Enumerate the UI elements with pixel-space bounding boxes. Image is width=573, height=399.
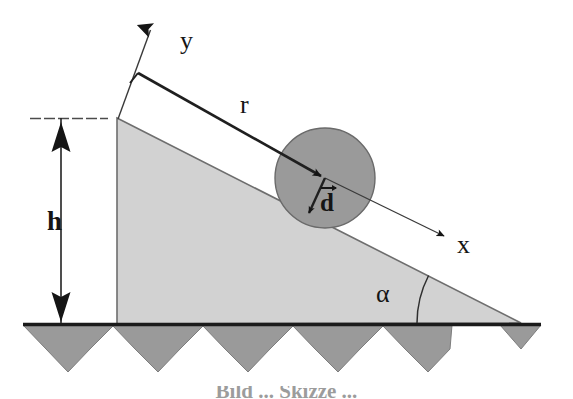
radius-label: r: [240, 92, 249, 118]
y-axis-line: [118, 30, 151, 119]
y-axis-label: y: [180, 28, 193, 54]
figure-caption: Bild ... Skizze ...: [0, 386, 573, 399]
angle-label: α: [376, 281, 390, 307]
figure-caption-text: Bild ... Skizze ...: [0, 386, 573, 399]
figure-canvas: [0, 0, 573, 399]
displacement-glyph: d: [320, 190, 334, 215]
displacement-letter: d: [320, 189, 334, 216]
figure-inclined-plane: y x r h α d Bild ... Skizze ...: [0, 0, 573, 399]
height-dimension: [30, 118, 108, 323]
x-axis-label: x: [457, 232, 470, 258]
height-label: h: [47, 208, 62, 235]
vector-overbar-icon: [321, 187, 336, 189]
displacement-vector-label: d: [320, 190, 334, 215]
ground-hatch: [23, 325, 541, 372]
